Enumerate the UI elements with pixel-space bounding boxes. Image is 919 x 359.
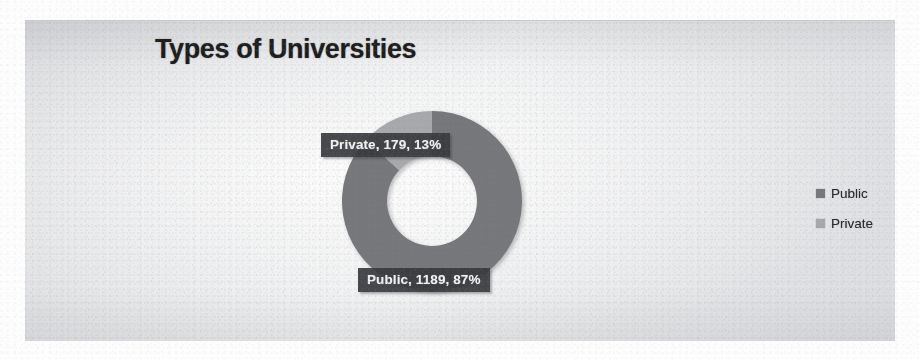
chart-title: Types of Universities xyxy=(155,34,416,65)
legend-item-private[interactable]: Private xyxy=(816,216,890,231)
legend-label-private: Private xyxy=(831,216,873,231)
scanned-page: Types of Universities Private, 179, 13% xyxy=(0,0,919,359)
legend-swatch-public-icon xyxy=(816,189,825,198)
legend-label-public: Public xyxy=(831,186,868,201)
chart-legend[interactable]: Public Private xyxy=(816,186,890,246)
chart-container[interactable]: Types of Universities Private, 179, 13% xyxy=(25,20,895,341)
legend-swatch-private-icon xyxy=(816,219,825,228)
data-label-private: Private, 179, 13% xyxy=(321,133,450,157)
legend-item-public[interactable]: Public xyxy=(816,186,890,201)
data-label-public: Public, 1189, 87% xyxy=(358,268,490,292)
